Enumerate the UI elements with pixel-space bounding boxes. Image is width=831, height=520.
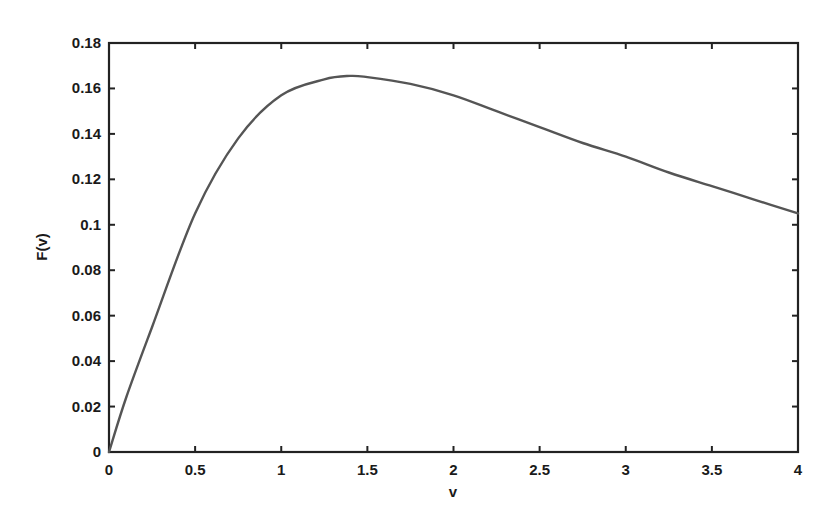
x-axis-ticks [195,43,712,452]
x-tick-label: 2 [449,461,457,478]
x-tick-label: 2.5 [529,461,550,478]
y-axis-tick-labels: 00.020.040.060.080.10.120.140.160.18 [72,34,102,460]
y-tick-label: 0.04 [72,352,102,369]
y-tick-label: 0.16 [72,79,101,96]
y-tick-label: 0.06 [72,307,101,324]
x-tick-label: 0.5 [185,461,206,478]
x-tick-label: 4 [794,461,803,478]
x-axis-label: v [449,483,458,500]
x-tick-label: 3.5 [701,461,722,478]
y-tick-label: 0 [93,443,101,460]
x-tick-label: 0 [105,461,113,478]
x-tick-label: 1.5 [357,461,378,478]
x-tick-label: 1 [277,461,285,478]
data-line-f-of-v [109,76,798,452]
y-tick-label: 0.12 [72,170,101,187]
y-tick-label: 0.18 [72,34,101,51]
y-tick-label: 0.02 [72,398,101,415]
y-tick-label: 0.14 [72,125,102,142]
x-axis-tick-labels: 00.511.522.533.54 [105,461,803,478]
y-tick-label: 0.1 [80,216,101,233]
y-axis-label: F(v) [33,233,50,261]
x-tick-label: 3 [622,461,630,478]
plot-frame [109,43,798,452]
y-tick-label: 0.08 [72,261,101,278]
y-axis-ticks [109,88,798,406]
chart: 00.511.522.533.54 00.020.040.060.080.10.… [0,0,831,520]
